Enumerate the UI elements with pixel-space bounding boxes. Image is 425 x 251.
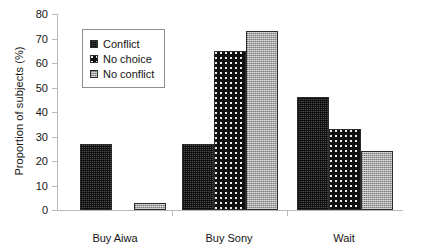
legend-label-no-conflict: No conflict: [103, 68, 154, 80]
x-separator-2: [287, 210, 288, 216]
legend-swatch-no-choice-icon: [90, 55, 98, 63]
x-axis-line: [57, 210, 403, 211]
y-tick-label-30: 30: [36, 131, 48, 143]
y-tick-label-40: 40: [36, 106, 48, 118]
y-tick-label-50: 50: [36, 82, 48, 94]
bar-buy-sony-conflict: [182, 144, 214, 210]
bar-wait-no-choice: [329, 129, 361, 210]
y-tick-label-10: 10: [36, 180, 48, 192]
y-tick-label-0: 0: [42, 204, 48, 216]
y-tick-label-70: 70: [36, 33, 48, 45]
x-separator-1: [172, 210, 173, 216]
bar-wait-conflict: [297, 97, 329, 210]
bar-wait-no-conflict: [361, 151, 393, 210]
bar-buy-sony-no-choice: [214, 51, 246, 210]
legend-item-no-choice: No choice: [90, 51, 154, 66]
x-label-buy-sony: Buy Sony: [205, 232, 252, 244]
y-tick-0: 0: [52, 210, 58, 211]
legend: Conflict No choice No conflict: [82, 29, 165, 88]
bar-buy-aiwa-conflict: [80, 144, 112, 210]
legend-item-conflict: Conflict: [90, 36, 154, 51]
y-axis-title: Proportion of subjects (%): [13, 16, 25, 206]
bar-buy-sony-no-conflict: [246, 31, 278, 210]
bar-group-wait: [287, 14, 402, 210]
legend-swatch-no-conflict-icon: [90, 70, 98, 78]
x-label-buy-aiwa: Buy Aiwa: [92, 232, 137, 244]
x-label-wait: Wait: [333, 232, 355, 244]
legend-label-conflict: Conflict: [103, 38, 140, 50]
legend-item-no-conflict: No conflict: [90, 66, 154, 81]
y-tick-label-60: 60: [36, 57, 48, 69]
y-tick-label-80: 80: [36, 8, 48, 20]
bar-group-buy-sony: [172, 14, 287, 210]
y-tick-label-20: 20: [36, 155, 48, 167]
bar-chart: Proportion of subjects (%) 0 10 20 30 40…: [0, 0, 425, 251]
legend-label-no-choice: No choice: [103, 53, 152, 65]
legend-swatch-conflict-icon: [90, 40, 98, 48]
bar-buy-aiwa-no-conflict: [134, 203, 166, 210]
